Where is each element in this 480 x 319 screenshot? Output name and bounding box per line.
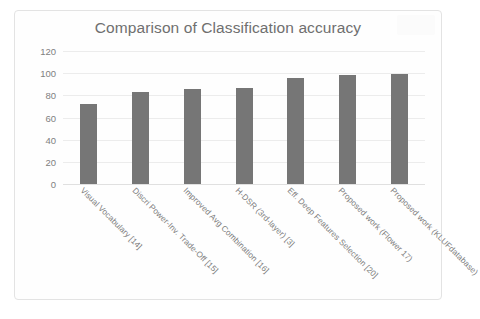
y-axis-tick-label: 80 — [45, 90, 56, 101]
y-axis-tick-label: 100 — [40, 68, 56, 79]
chart-title: Comparison of Classification accuracy — [15, 19, 441, 37]
x-axis-category-label: H-DSR (3rd-layer) [3] — [234, 186, 297, 249]
bar[interactable] — [132, 92, 149, 184]
y-axis-tick-label: 60 — [45, 112, 56, 123]
bar[interactable] — [80, 104, 97, 184]
bar[interactable] — [184, 89, 201, 184]
y-axis-tick-label: 0 — [51, 179, 56, 190]
bar[interactable] — [339, 75, 356, 184]
x-axis-category-label: Proposed work (KLUFdatabase) — [389, 186, 480, 277]
x-axis-labels: Visual Vocabulary [14]Discri Power-Inv. … — [63, 186, 425, 296]
y-axis-tick-label: 40 — [45, 134, 56, 145]
gridline — [63, 73, 425, 74]
y-axis-tick-label: 120 — [40, 46, 56, 57]
bar[interactable] — [287, 78, 304, 184]
x-axis-category-label: Eff. Deep Features Selection [20] — [285, 186, 379, 280]
gridline — [63, 184, 425, 185]
y-axis-tick-label: 20 — [45, 156, 56, 167]
bar[interactable] — [391, 74, 408, 184]
gridline — [63, 51, 425, 52]
x-axis-category-label: Discri Power-Inv. Trade-Off [15] — [130, 186, 219, 275]
chart-container: Comparison of Classification accuracy 02… — [14, 10, 442, 300]
x-axis-category-label: Improved Avg Combination [16] — [182, 186, 271, 275]
plot-area: 020406080100120 — [63, 51, 425, 184]
bar[interactable] — [236, 88, 253, 184]
